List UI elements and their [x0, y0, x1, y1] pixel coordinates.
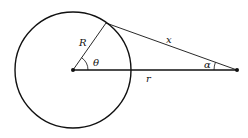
- label-x: x: [166, 34, 172, 45]
- center-point: [71, 68, 75, 72]
- theta-arc: [82, 58, 88, 70]
- label-alpha: α: [204, 59, 211, 70]
- label-R: R: [78, 37, 87, 48]
- radius-line-R: [73, 23, 106, 70]
- diagram-canvas: R θ x α r: [0, 0, 248, 138]
- label-theta: θ: [93, 57, 99, 68]
- alpha-arc: [214, 62, 215, 70]
- external-point: [235, 68, 239, 72]
- label-r: r: [146, 73, 152, 84]
